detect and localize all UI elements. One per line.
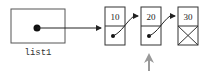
node-value: 20 bbox=[147, 12, 157, 22]
node-10: 10 bbox=[105, 7, 138, 45]
node-30: 30 bbox=[178, 7, 198, 45]
node-20: 20 bbox=[141, 7, 175, 45]
node-value: 30 bbox=[184, 12, 194, 22]
current-pointer-arrow-icon bbox=[144, 53, 154, 71]
variable-list1: list1 bbox=[11, 9, 101, 58]
variable-label: list1 bbox=[24, 48, 51, 58]
node-value: 10 bbox=[111, 12, 121, 22]
linked-list-diagram: list1 10 20 30 bbox=[0, 0, 210, 73]
